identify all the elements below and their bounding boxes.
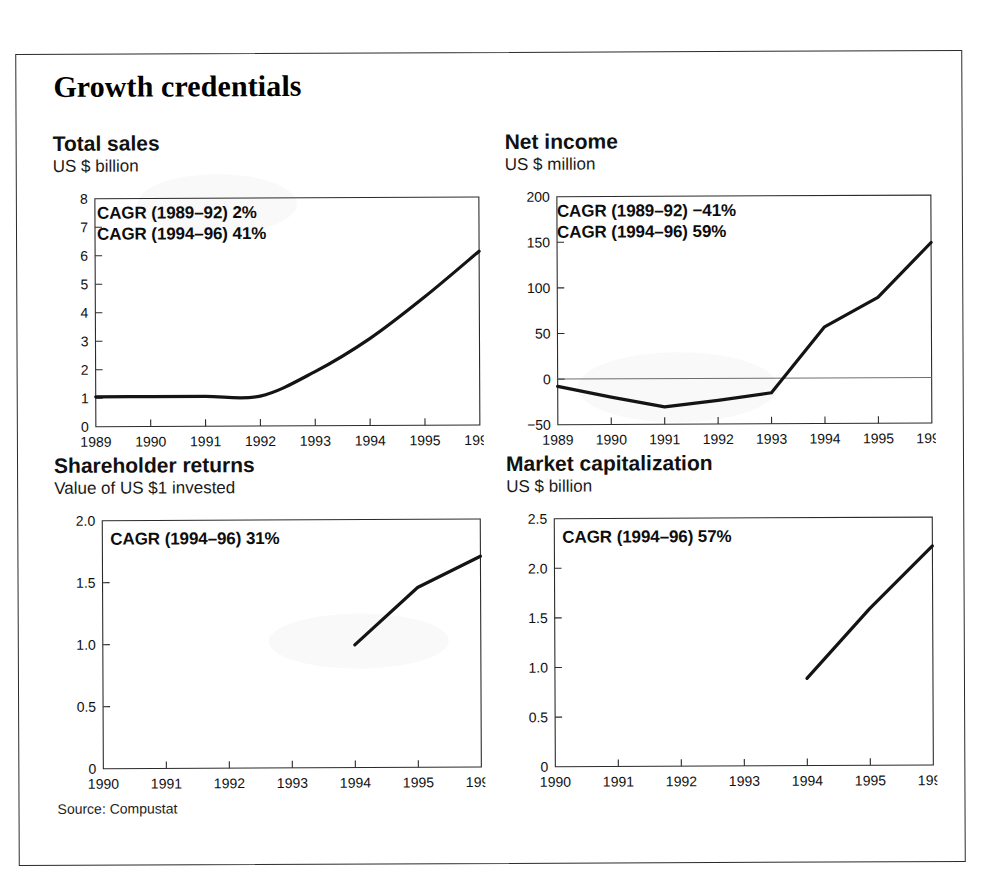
panel-title-total-sales: Total sales <box>53 131 483 156</box>
page-border: Growth credentials Total sales US $ bill… <box>15 50 966 866</box>
chart-market-cap-svg: 00.51.01.52.02.5199019911992199319941995… <box>506 508 937 798</box>
svg-text:1.5: 1.5 <box>528 610 548 626</box>
svg-text:1993: 1993 <box>729 773 760 789</box>
annotation-total-sales-2: CAGR (1994–96) 41% <box>97 224 266 245</box>
svg-text:1989: 1989 <box>542 432 573 448</box>
chart-shareholder-returns: 00.51.01.52.0199019911992199319941995199… <box>54 510 485 800</box>
svg-text:200: 200 <box>526 189 550 205</box>
panel-market-capitalization: Market capitalization US $ billion 00.51… <box>506 451 938 798</box>
annotation-net-income-2: CAGR (1994–96) 59% <box>557 222 726 243</box>
svg-text:0: 0 <box>81 419 89 435</box>
svg-text:6: 6 <box>80 248 88 264</box>
svg-text:7: 7 <box>80 219 88 235</box>
panel-subtitle-net-income: US $ million <box>505 153 935 175</box>
svg-text:0.5: 0.5 <box>529 709 549 725</box>
svg-text:1994: 1994 <box>355 433 386 449</box>
svg-text:1: 1 <box>81 390 89 406</box>
svg-text:0: 0 <box>89 761 97 777</box>
svg-text:1992: 1992 <box>214 775 245 791</box>
svg-text:0: 0 <box>541 759 549 775</box>
annotation-total-sales-1: CAGR (1989–92) 2% <box>97 203 257 224</box>
chart-market-capitalization: 00.51.01.52.02.5199019911992199319941995… <box>506 508 937 798</box>
page-title: Growth credentials <box>53 69 301 104</box>
chart-total-sales: 0123456781989199019911992199319941995199… <box>53 188 484 458</box>
svg-text:1991: 1991 <box>603 773 634 789</box>
svg-text:50: 50 <box>535 326 551 342</box>
svg-text:1993: 1993 <box>300 433 331 449</box>
svg-text:1994: 1994 <box>809 431 840 447</box>
svg-text:1996: 1996 <box>464 432 484 448</box>
svg-text:1994: 1994 <box>340 775 371 791</box>
svg-text:1.0: 1.0 <box>528 660 548 676</box>
svg-text:1991: 1991 <box>190 433 221 449</box>
annotation-net-income-1: CAGR (1989–92) −41% <box>557 201 736 222</box>
svg-text:1991: 1991 <box>151 775 182 791</box>
panel-net-income: Net income US $ million −500501001502001… <box>505 129 936 456</box>
chart-net-income: −500501001502001989199019911992199319941… <box>505 186 936 456</box>
panel-subtitle-market-cap: US $ billion <box>506 475 936 497</box>
svg-text:1994: 1994 <box>792 773 823 789</box>
svg-text:2.0: 2.0 <box>76 513 96 529</box>
svg-text:2.5: 2.5 <box>528 511 548 527</box>
svg-text:1992: 1992 <box>666 773 697 789</box>
panel-shareholder-returns: Shareholder returns Value of US $1 inves… <box>54 453 486 800</box>
panel-title-net-income: Net income <box>505 129 935 154</box>
annotation-market-cap-1: CAGR (1994–96) 57% <box>562 527 731 548</box>
panel-title-market-cap: Market capitalization <box>506 451 936 476</box>
panel-subtitle-shareholder: Value of US $1 invested <box>54 477 484 499</box>
panel-total-sales: Total sales US $ billion 012345678198919… <box>53 131 484 458</box>
svg-text:1993: 1993 <box>277 775 308 791</box>
svg-text:1995: 1995 <box>403 774 434 790</box>
svg-text:1990: 1990 <box>540 774 571 790</box>
svg-text:0: 0 <box>543 371 551 387</box>
svg-text:1991: 1991 <box>649 431 680 447</box>
svg-text:1990: 1990 <box>88 776 119 792</box>
svg-text:1990: 1990 <box>596 431 627 447</box>
svg-text:0.5: 0.5 <box>77 699 97 715</box>
svg-text:1990: 1990 <box>135 433 166 449</box>
svg-text:1995: 1995 <box>855 772 886 788</box>
svg-text:−50: −50 <box>527 417 551 433</box>
svg-text:1992: 1992 <box>703 431 734 447</box>
svg-text:1996: 1996 <box>918 772 938 788</box>
svg-text:1993: 1993 <box>756 431 787 447</box>
svg-text:3: 3 <box>81 333 89 349</box>
panel-subtitle-total-sales: US $ billion <box>53 155 483 177</box>
svg-text:1.0: 1.0 <box>76 637 96 653</box>
svg-text:1996: 1996 <box>916 430 936 446</box>
svg-text:100: 100 <box>527 280 551 296</box>
svg-text:8: 8 <box>80 191 88 207</box>
svg-text:1989: 1989 <box>80 434 111 450</box>
svg-text:1.5: 1.5 <box>76 575 96 591</box>
svg-text:2.0: 2.0 <box>528 560 548 576</box>
svg-text:5: 5 <box>80 276 88 292</box>
svg-text:1995: 1995 <box>409 432 440 448</box>
svg-text:4: 4 <box>81 305 89 321</box>
svg-text:2: 2 <box>81 362 89 378</box>
panel-title-shareholder: Shareholder returns <box>54 453 484 478</box>
svg-text:150: 150 <box>527 234 551 250</box>
svg-text:1995: 1995 <box>863 430 894 446</box>
source-note: Source: Compustat <box>57 800 177 817</box>
svg-text:1992: 1992 <box>245 433 276 449</box>
svg-text:1996: 1996 <box>466 774 486 790</box>
chart-shareholder-svg: 00.51.01.52.0199019911992199319941995199… <box>54 510 485 800</box>
annotation-shareholder-1: CAGR (1994–96) 31% <box>110 529 279 550</box>
